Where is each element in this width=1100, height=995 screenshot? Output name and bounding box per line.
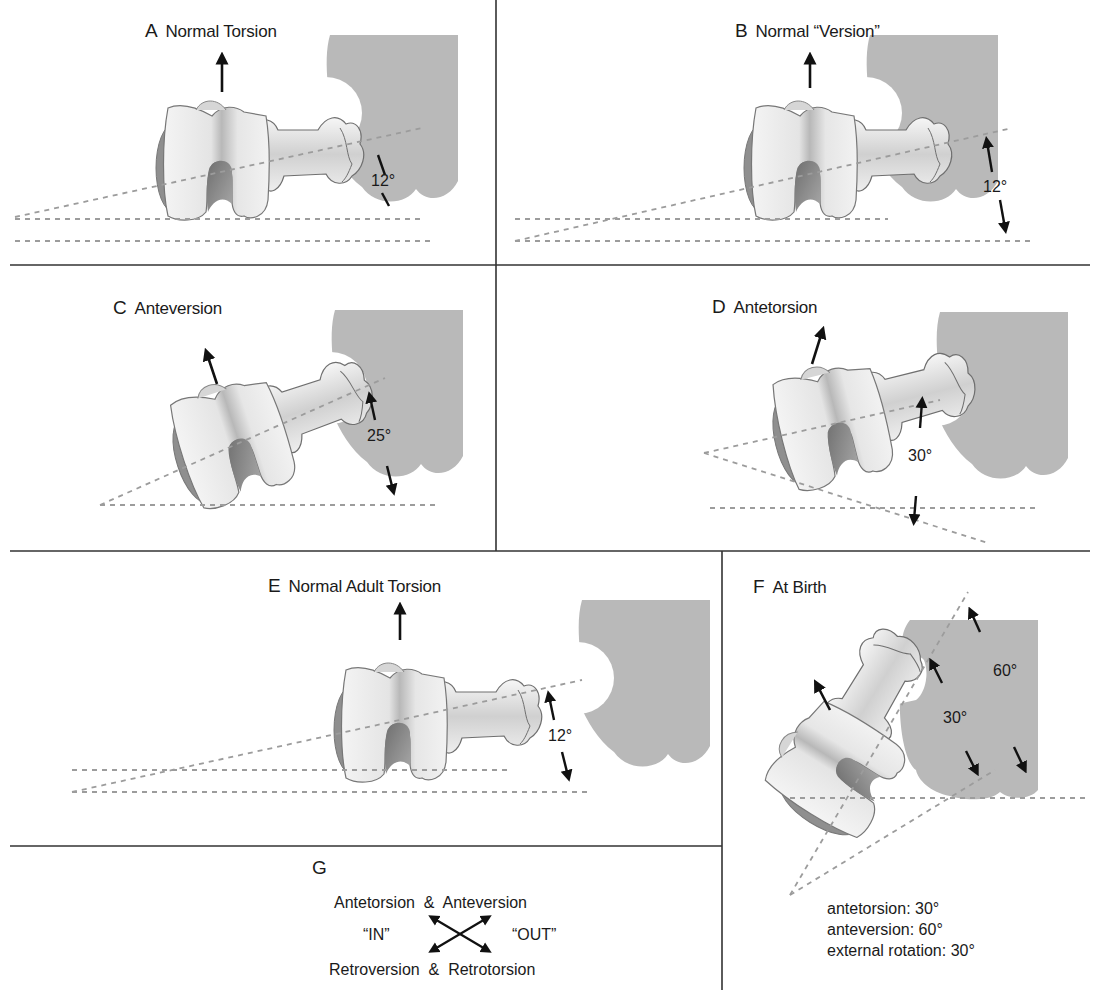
panel-g-title: G xyxy=(312,857,335,879)
figure-illustrations xyxy=(0,0,1100,995)
panel-g-bottom-line: Retroversion & Retrotorsion xyxy=(329,961,535,979)
in-out-crossed-arrows-icon xyxy=(433,918,487,950)
panel-f-angle-30: 30° xyxy=(943,709,967,727)
panel-c-illustration xyxy=(100,310,463,516)
summary-anteversion: anteversion: 60° xyxy=(827,919,975,940)
panel-a-angle: 12° xyxy=(371,172,395,190)
femoral-torsion-figure: ANormal Torsion 12° BNormal “Version” 12… xyxy=(0,0,1100,995)
panel-c-title: CAnteversion xyxy=(113,297,222,319)
panel-c-angle: 25° xyxy=(367,427,391,445)
panel-b-title: BNormal “Version” xyxy=(735,20,880,42)
panel-a-illustration xyxy=(15,35,458,241)
panel-f-title: FAt Birth xyxy=(753,576,827,598)
panel-e-title: ENormal Adult Torsion xyxy=(268,575,441,597)
panel-d-title: DAntetorsion xyxy=(712,296,817,318)
panel-b-illustration xyxy=(515,35,1030,241)
summary-antetorsion: antetorsion: 30° xyxy=(827,898,975,919)
panel-d-angle: 30° xyxy=(908,447,932,465)
panel-g-top-line: Antetorsion & Anteversion xyxy=(334,894,527,912)
panel-f-angle-60: 60° xyxy=(993,662,1017,680)
panel-g-in-label: “IN” xyxy=(363,926,390,944)
summary-external-rotation: external rotation: 30° xyxy=(827,940,975,961)
panel-e-illustration xyxy=(72,600,710,792)
panel-f-summary: antetorsion: 30° anteversion: 60° extern… xyxy=(827,898,975,961)
panel-g-out-label: “OUT” xyxy=(512,926,556,944)
panel-f-illustration xyxy=(753,592,1090,895)
panel-b-angle: 12° xyxy=(983,178,1007,196)
panel-a-title: ANormal Torsion xyxy=(145,20,277,42)
panel-d-illustration xyxy=(704,312,1068,543)
panel-e-angle: 12° xyxy=(548,727,572,745)
